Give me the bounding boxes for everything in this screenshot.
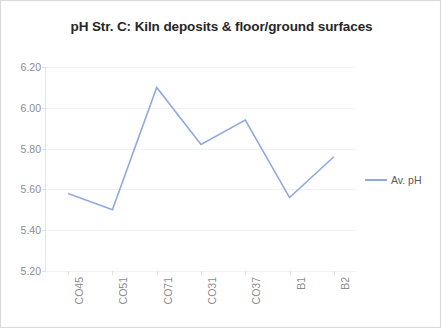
y-tick-label: 5.60	[7, 184, 41, 194]
chart-legend: Av. pH	[365, 174, 422, 186]
y-axis-labels: 5.205.405.605.806.006.20	[7, 67, 41, 271]
y-tick-label: 6.20	[7, 62, 41, 72]
chart-title: pH Str. C: Kiln deposits & floor/ground …	[1, 19, 441, 34]
y-tick-mark	[42, 230, 46, 231]
legend-label-av-ph: Av. pH	[391, 174, 422, 186]
chart-container: pH Str. C: Kiln deposits & floor/ground …	[0, 0, 441, 328]
y-tick-mark	[42, 108, 46, 109]
x-tick-mark	[245, 271, 246, 275]
x-tick-mark	[68, 271, 69, 275]
y-tick-mark	[42, 271, 46, 272]
x-tick-label-b1: B1	[295, 277, 307, 290]
y-tick-mark	[42, 149, 46, 150]
y-tick-label: 5.40	[7, 225, 41, 235]
y-tick-label: 5.80	[7, 144, 41, 154]
x-tick-label-co51: CO51	[117, 277, 129, 304]
x-tick-mark	[112, 271, 113, 275]
y-tick-label: 5.20	[7, 266, 41, 276]
x-tick-mark	[201, 271, 202, 275]
x-tick-label-b2: B2	[339, 277, 351, 290]
x-tick-label-co37: CO37	[250, 277, 262, 304]
y-tick-mark	[42, 67, 46, 68]
x-tick-mark	[334, 271, 335, 275]
x-tick-label-co45: CO45	[73, 277, 85, 304]
y-tick-mark	[42, 189, 46, 190]
y-tick-label: 6.00	[7, 103, 41, 113]
x-tick-mark	[157, 271, 158, 275]
x-tick-label-co31: CO31	[206, 277, 218, 304]
x-tick-label-co71: CO71	[162, 277, 174, 304]
legend-line-swatch	[365, 179, 387, 181]
x-tick-mark	[290, 271, 291, 275]
series-av-ph	[46, 67, 356, 271]
